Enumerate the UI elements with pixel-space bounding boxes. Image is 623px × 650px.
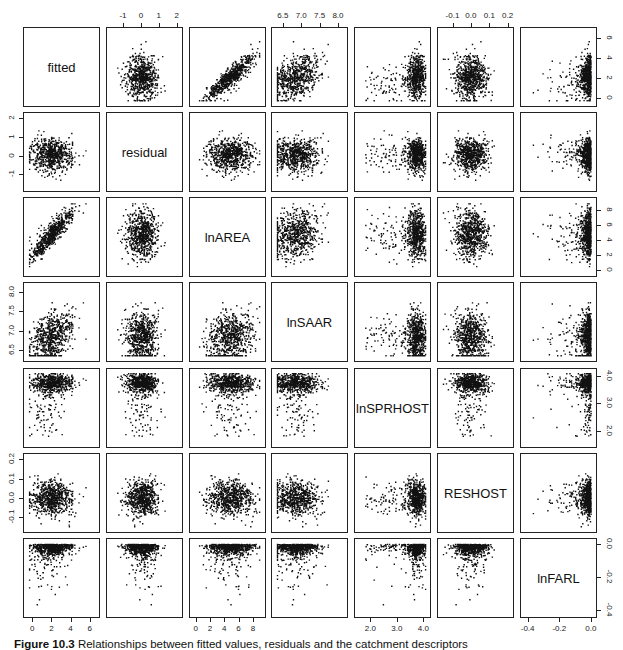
scatter-points bbox=[190, 454, 264, 531]
axis-tick-label: -0.4 bbox=[605, 602, 614, 618]
diagonal-panel-lnfarl: lnFARL bbox=[520, 538, 597, 618]
axis-tick bbox=[253, 618, 254, 622]
axis-tick bbox=[19, 311, 23, 312]
scatter-points bbox=[107, 539, 181, 616]
diagonal-panel-lnarea: lnAREA bbox=[189, 197, 266, 277]
axis-tick bbox=[597, 225, 601, 226]
axis-tick-label: 2 bbox=[7, 110, 16, 126]
scatter-points bbox=[521, 198, 595, 275]
scatter-panel-fitted-vs-lnarea bbox=[189, 27, 266, 107]
scatter-points bbox=[272, 369, 346, 446]
axis-tick bbox=[597, 376, 601, 377]
axis-tick-label: 0.0 bbox=[463, 11, 479, 20]
caption-label: Figure 10.3 bbox=[14, 638, 75, 650]
axis-tick-label: 2 bbox=[605, 247, 614, 263]
scatter-points bbox=[107, 369, 181, 446]
axis-tick-label: -1 bbox=[7, 166, 16, 182]
axis-tick-label: 0 bbox=[605, 89, 614, 105]
scatter-panel-lnsaar-vs-lnarea bbox=[189, 282, 266, 362]
scatter-panel-lnfarl-vs-lnsprhost bbox=[354, 538, 431, 618]
axis-tick-label: -0.4 bbox=[520, 624, 536, 633]
scatter-panel-fitted-vs-lnsprhost bbox=[354, 27, 431, 107]
axis-tick-label: 8.0 bbox=[330, 11, 346, 20]
scatter-panel-reshost-vs-lnsprhost bbox=[354, 453, 431, 533]
axis-tick-label: -0.2 bbox=[551, 624, 567, 633]
scatter-panel-reshost-vs-lnfarl bbox=[520, 453, 597, 533]
axis-tick-label: 2 bbox=[169, 11, 185, 20]
scatter-panel-lnsprhost-vs-lnarea bbox=[189, 368, 266, 448]
axis-tick bbox=[320, 23, 321, 27]
axis-tick bbox=[597, 240, 601, 241]
scatter-points bbox=[438, 113, 512, 190]
scatter-points bbox=[438, 198, 512, 275]
axis-tick-label: 8.0 bbox=[7, 284, 16, 300]
scatter-panel-reshost-vs-residual bbox=[106, 453, 183, 533]
variable-label: lnSPRHOST bbox=[355, 401, 430, 416]
axis-tick bbox=[453, 23, 454, 27]
scatter-points bbox=[272, 539, 346, 616]
axis-tick-label: 0.1 bbox=[7, 470, 16, 486]
scatter-points bbox=[355, 28, 429, 105]
figure-caption: Figure 10.3 Relationships between fitted… bbox=[14, 638, 468, 650]
scatter-panel-lnsaar-vs-fitted bbox=[23, 282, 100, 362]
axis-tick-label: 0.0 bbox=[605, 536, 614, 552]
axis-tick bbox=[239, 618, 240, 622]
axis-tick bbox=[141, 23, 142, 27]
scatter-points bbox=[438, 283, 512, 360]
axis-tick bbox=[283, 23, 284, 27]
axis-tick-label: 4 bbox=[605, 49, 614, 65]
scatter-panel-fitted-vs-lnfarl bbox=[520, 27, 597, 107]
axis-tick bbox=[19, 350, 23, 351]
axis-tick bbox=[71, 618, 72, 622]
axis-tick bbox=[19, 137, 23, 138]
axis-tick-label: -0.2 bbox=[605, 569, 614, 585]
axis-tick bbox=[301, 23, 302, 27]
axis-tick-label: 0 bbox=[24, 624, 40, 633]
axis-tick-label: 7.0 bbox=[7, 322, 16, 338]
scatter-panel-reshost-vs-fitted bbox=[23, 453, 100, 533]
variable-label: lnSAAR bbox=[272, 315, 347, 330]
scatter-points bbox=[24, 113, 98, 190]
scatter-panel-reshost-vs-lnsaar bbox=[271, 453, 348, 533]
axis-tick bbox=[19, 459, 23, 460]
axis-tick-label: 0 bbox=[605, 262, 614, 278]
scatter-points bbox=[272, 454, 346, 531]
axis-tick-label: 4 bbox=[605, 232, 614, 248]
scatter-points bbox=[355, 539, 429, 616]
axis-tick bbox=[597, 38, 601, 39]
variable-label: fitted bbox=[24, 60, 99, 75]
axis-tick bbox=[423, 618, 424, 622]
axis-tick bbox=[597, 270, 601, 271]
scatter-panel-lnfarl-vs-lnsaar bbox=[271, 538, 348, 618]
axis-tick-label: 6 bbox=[605, 29, 614, 45]
scatter-panel-lnsaar-vs-lnsprhost bbox=[354, 282, 431, 362]
axis-tick bbox=[123, 23, 124, 27]
scatter-panel-lnarea-vs-fitted bbox=[23, 197, 100, 277]
axis-tick-label: 1 bbox=[151, 11, 167, 20]
axis-tick-label: 0.0 bbox=[583, 624, 599, 633]
axis-tick bbox=[32, 618, 33, 622]
axis-tick bbox=[196, 618, 197, 622]
axis-tick-label: 6.5 bbox=[7, 341, 16, 357]
scatter-panel-residual-vs-reshost bbox=[437, 112, 514, 192]
axis-tick bbox=[597, 577, 601, 578]
scatter-panel-fitted-vs-residual bbox=[106, 27, 183, 107]
axis-tick bbox=[597, 210, 601, 211]
scatter-panel-lnfarl-vs-residual bbox=[106, 538, 183, 618]
axis-tick-label: 2.0 bbox=[362, 624, 378, 633]
scatter-panel-lnfarl-vs-fitted bbox=[23, 538, 100, 618]
axis-tick-label: 2.0 bbox=[605, 423, 614, 439]
scatter-panel-lnfarl-vs-reshost bbox=[437, 538, 514, 618]
diagonal-panel-lnsprhost: lnSPRHOST bbox=[354, 368, 431, 448]
scatter-points bbox=[521, 454, 595, 531]
axis-tick-label: 3.0 bbox=[389, 624, 405, 633]
axis-tick bbox=[397, 618, 398, 622]
scatter-panel-lnsaar-vs-lnfarl bbox=[520, 282, 597, 362]
scatter-panel-lnsprhost-vs-lnsaar bbox=[271, 368, 348, 448]
axis-tick bbox=[159, 23, 160, 27]
scatter-points bbox=[355, 454, 429, 531]
axis-tick-label: 3.0 bbox=[605, 395, 614, 411]
axis-tick bbox=[597, 78, 601, 79]
axis-tick bbox=[224, 618, 225, 622]
